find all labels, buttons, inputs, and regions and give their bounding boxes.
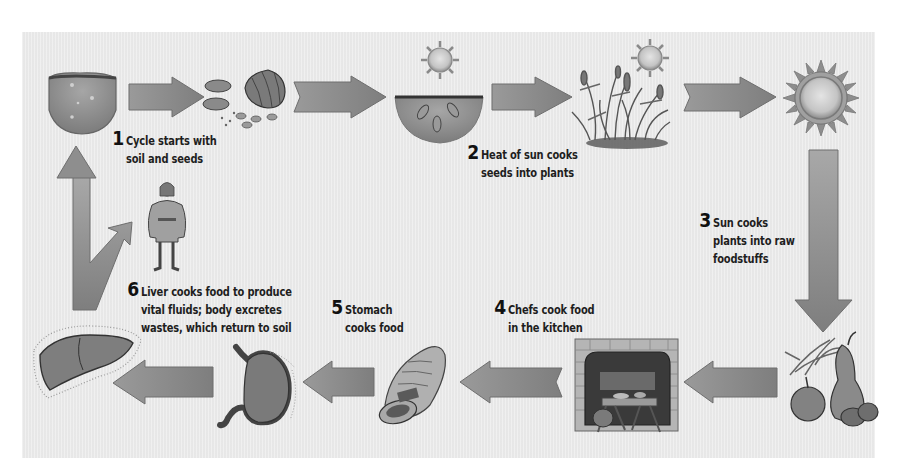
step-4-label: 4 Chefs cook food in the kitchen (508, 301, 595, 337)
step-6-line-1: Liver cooks food to produce (141, 283, 292, 301)
step-3-line-3: foodstuffs (713, 250, 795, 268)
step-3-label: 3 Sun cooks plants into raw foodstuffs (713, 214, 795, 268)
soil-with-seeds-icon (395, 97, 483, 143)
step-2-label: 2 Heat of sun cooks seeds into plants (481, 146, 578, 182)
sun-icon (783, 60, 859, 136)
arrow-right-2 (294, 76, 386, 118)
step-1-number: 1 (112, 129, 124, 147)
step-4-line-2: in the kitchen (508, 319, 595, 337)
fruit-and-grain-icon (785, 332, 878, 426)
step-6-line-3: wastes, which return to soil (141, 319, 292, 337)
grain-plants-icon (572, 66, 670, 149)
step-2-line-1: Heat of sun cooks (481, 146, 578, 164)
step-5-label: 5 Stomach cooks food (345, 301, 404, 337)
step-4-line-1: Chefs cook food (508, 301, 595, 319)
soil-clump-icon (49, 73, 116, 134)
step-1-label: 1 Cycle starts with soil and seeds (126, 132, 217, 168)
step-6-line-2: vital fluids; body excretes (141, 301, 292, 319)
step-4-number: 4 (494, 298, 506, 316)
arrow-left-4 (113, 360, 213, 404)
arrow-right-4 (684, 77, 776, 118)
step-5-line-1: Stomach (345, 301, 404, 319)
step-5-line-2: cooks food (345, 319, 404, 337)
step-5-number: 5 (331, 298, 343, 316)
step-3-number: 3 (699, 211, 711, 229)
arrow-left-2 (460, 361, 562, 403)
step-6-label: 6 Liver cooks food to produce vital flui… (141, 283, 292, 337)
step-2-line-2: seeds into plants (481, 164, 578, 182)
medieval-person-icon (148, 183, 185, 271)
arrow-up-branch (57, 146, 132, 310)
step-3-line-2: plants into raw (713, 232, 795, 250)
bread-loaf-icon (377, 347, 446, 428)
hearth-kitchen-icon (575, 339, 678, 432)
step-6-number: 6 (127, 280, 139, 298)
seeds-icon (203, 70, 285, 128)
stomach-icon (220, 347, 296, 425)
step-1-line-2: soil and seeds (126, 150, 217, 168)
step-3-line-1: Sun cooks (713, 214, 795, 232)
arrow-right-3 (492, 77, 572, 117)
sun-icon (631, 39, 669, 77)
arrow-left-3 (303, 361, 374, 403)
step-1-line-1: Cycle starts with (126, 132, 217, 150)
arrow-down (795, 150, 852, 332)
arrow-right-1 (129, 77, 204, 117)
arrow-left-1 (684, 361, 777, 403)
step-2-number: 2 (467, 143, 479, 161)
sun-icon (421, 41, 459, 79)
